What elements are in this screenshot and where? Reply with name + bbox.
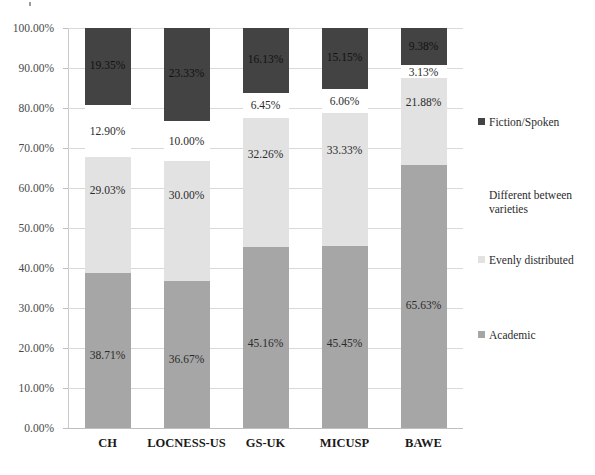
- legend-label: Evenly distributed: [489, 253, 574, 267]
- y-tick-mark: [63, 268, 68, 269]
- bar-segment[interactable]: [322, 113, 368, 246]
- legend-label: Different between varieties: [489, 188, 595, 217]
- legend-swatch: [478, 331, 485, 338]
- bar-segment[interactable]: [401, 78, 447, 166]
- y-axis-tick-label: 20.00%: [0, 342, 61, 354]
- legend-item[interactable]: Fiction/Spoken: [478, 115, 595, 129]
- bar-group[interactable]: 38.71%29.03%12.90%19.35%: [85, 28, 131, 428]
- data-label: 36.67%: [169, 353, 204, 365]
- data-label: 33.33%: [327, 144, 362, 156]
- y-axis-tick-label: 80.00%: [0, 102, 61, 114]
- bar-group[interactable]: 45.16%32.26%6.45%16.13%: [243, 28, 289, 428]
- bar-segment[interactable]: [85, 157, 131, 273]
- y-tick-mark: [63, 308, 68, 309]
- bar-segment[interactable]: [401, 165, 447, 428]
- bar-segment[interactable]: [164, 161, 210, 281]
- y-tick-mark: [63, 348, 68, 349]
- bar-group[interactable]: 45.45%33.33%6.06%15.15%: [322, 28, 368, 428]
- gridline: [68, 428, 463, 429]
- chart-legend: Fiction/SpokenDifferent between varietie…: [478, 0, 595, 475]
- x-axis-category-label: MICUSP: [320, 436, 369, 451]
- bar-stack: [322, 28, 368, 428]
- y-tick-mark: [63, 388, 68, 389]
- legend-swatch: [478, 191, 485, 198]
- data-label: 19.35%: [90, 59, 125, 71]
- legend-item[interactable]: Different between varieties: [478, 188, 595, 217]
- data-label: 21.88%: [406, 96, 441, 108]
- x-axis-category-label: GS-UK: [246, 436, 286, 451]
- legend-swatch: [478, 118, 485, 125]
- data-label: 45.16%: [248, 337, 283, 349]
- bar-stack: [243, 28, 289, 428]
- y-axis-tick-label: 50.00%: [0, 222, 61, 234]
- plot-area: 38.71%29.03%12.90%19.35%36.67%30.00%10.0…: [68, 28, 463, 428]
- y-tick-mark: [63, 228, 68, 229]
- y-axis-tick-label: 40.00%: [0, 262, 61, 274]
- data-label: 23.33%: [169, 67, 204, 79]
- y-axis-tick-label: 30.00%: [0, 302, 61, 314]
- legend-label: Academic: [489, 328, 536, 342]
- data-label: 16.13%: [248, 53, 283, 65]
- data-label: 3.13%: [409, 66, 439, 78]
- y-axis-tick-label: 0.00%: [0, 422, 61, 434]
- data-label: 10.00%: [169, 135, 204, 147]
- bar-stack: [85, 28, 131, 428]
- bar-stack: [401, 28, 447, 428]
- y-tick-mark: [63, 428, 68, 429]
- y-axis-tick-label: 10.00%: [0, 382, 61, 394]
- y-axis-tick-label: 100.00%: [0, 22, 61, 34]
- legend-item[interactable]: Evenly distributed: [478, 253, 595, 267]
- data-label: 30.00%: [169, 189, 204, 201]
- data-label: 32.26%: [248, 148, 283, 160]
- legend-item[interactable]: Academic: [478, 328, 595, 342]
- y-axis-tick-label: 70.00%: [0, 142, 61, 154]
- data-label: 15.15%: [327, 51, 362, 63]
- y-tick-mark: [63, 68, 68, 69]
- x-axis-category-label: BAWE: [405, 436, 442, 451]
- stacked-bar-chart: 0.00%10.00%20.00%30.00%40.00%50.00%60.00…: [0, 0, 595, 475]
- data-label: 12.90%: [90, 125, 125, 137]
- data-label: 65.63%: [406, 299, 441, 311]
- legend-label: Fiction/Spoken: [489, 115, 559, 129]
- y-tick-mark: [63, 108, 68, 109]
- y-axis-tick-label: 60.00%: [0, 182, 61, 194]
- bar-group[interactable]: 36.67%30.00%10.00%23.33%: [164, 28, 210, 428]
- data-label: 38.71%: [90, 349, 125, 361]
- y-tick-mark: [63, 188, 68, 189]
- data-label: 6.45%: [251, 99, 281, 111]
- x-axis-category-label: LOCNESS-US: [147, 436, 226, 451]
- data-label: 45.45%: [327, 337, 362, 349]
- x-axis-category-label: CH: [98, 436, 117, 451]
- bar-stack: [164, 28, 210, 428]
- bar-segment[interactable]: [243, 118, 289, 247]
- y-tick-mark: [63, 28, 68, 29]
- legend-swatch: [478, 256, 485, 263]
- data-label: 9.38%: [409, 40, 439, 52]
- y-tick-mark: [63, 148, 68, 149]
- y-axis-tick-label: 90.00%: [0, 62, 61, 74]
- bar-group[interactable]: 65.63%21.88%3.13%9.38%: [401, 28, 447, 428]
- scan-artifact: [29, 2, 31, 6]
- data-label: 6.06%: [330, 95, 360, 107]
- data-label: 29.03%: [90, 184, 125, 196]
